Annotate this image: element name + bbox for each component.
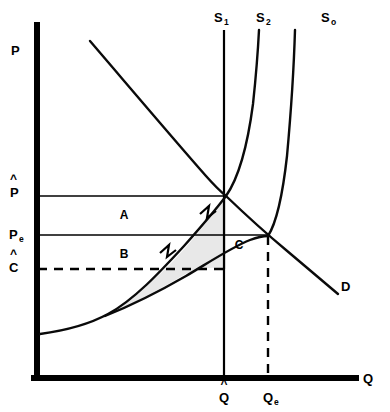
price-e-tick-label: P e (9, 227, 24, 244)
svg-text:2: 2 (266, 17, 271, 27)
supply-s2-curve (105, 30, 295, 316)
svg-text:S: S (256, 10, 265, 25)
chart-canvas: P Q ^ P P e ^ C ^ Q Q e S 1 (0, 0, 390, 412)
demand-curve-label: D (341, 279, 350, 294)
svg-text:S: S (321, 10, 330, 25)
svg-text:e: e (19, 234, 24, 244)
svg-text:^: ^ (220, 377, 227, 391)
svg-text:e: e (274, 397, 279, 407)
supply-s0-label: S o (321, 10, 336, 27)
quantity-axis-label: Q (363, 371, 373, 386)
svg-text:P: P (10, 185, 19, 200)
svg-text:Q: Q (219, 390, 229, 405)
quantity-hat-tick-label: ^ Q (219, 377, 229, 405)
svg-text:^: ^ (10, 172, 17, 186)
svg-text:o: o (331, 17, 336, 27)
svg-text:P: P (9, 227, 18, 242)
region-b-label: B (120, 247, 129, 261)
svg-text:Q: Q (263, 390, 273, 405)
cost-hat-tick-label: ^ C (9, 247, 19, 275)
supply-s1-label: S 1 (214, 10, 229, 27)
price-axis-label: P (11, 43, 20, 58)
quantity-e-tick-label: Q e (263, 390, 279, 407)
svg-text:C: C (9, 260, 19, 275)
zigzag-mark-lower (160, 245, 176, 257)
svg-text:^: ^ (10, 247, 17, 261)
svg-text:1: 1 (224, 17, 229, 27)
price-hat-tick-label: ^ P (10, 172, 19, 200)
region-a-label: A (120, 208, 129, 222)
supply-s2-label: S 2 (256, 10, 271, 27)
supply-demand-diagram: P Q ^ P P e ^ C ^ Q Q e S 1 (0, 0, 390, 412)
region-c-label: C (235, 238, 244, 252)
svg-text:S: S (214, 10, 223, 25)
